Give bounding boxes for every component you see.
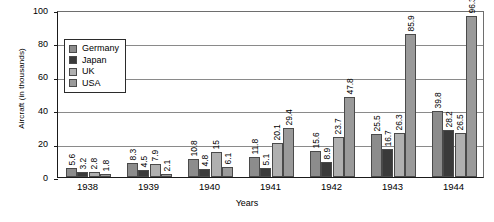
bar	[321, 162, 332, 177]
legend-label-uk: UK	[82, 67, 95, 76]
bar-value-label: 29.4	[284, 109, 293, 125]
bar	[100, 174, 111, 177]
bars-layer: 5.63.22.81.88.34.57.92.110.84.8156.111.8…	[58, 12, 483, 177]
bar-group: 10.84.8156.1	[180, 12, 241, 177]
bar-value-label: 5.1	[262, 154, 271, 166]
bar-value-label: 47.8	[345, 79, 354, 95]
bar	[371, 134, 382, 177]
bar-value-label: 4.8	[201, 155, 210, 167]
bar-value-label: 26.5	[456, 114, 465, 130]
bar	[150, 164, 161, 177]
bar-chart: Aircraft (in thousands) 020406080100 5.6…	[0, 0, 494, 222]
bar-value-label: 5.6	[67, 154, 76, 166]
bar	[333, 137, 344, 177]
bar-value-label: 1.8	[101, 160, 110, 172]
x-tick-label: 1942	[301, 182, 362, 192]
bar-group: 15.68.923.747.8	[302, 12, 363, 177]
bar-value-label: 16.7	[384, 130, 393, 146]
y-tick-label: 40	[20, 107, 48, 116]
bar-value-label: 4.5	[140, 155, 149, 167]
legend-swatch-japan	[69, 56, 77, 64]
bar	[138, 170, 149, 178]
legend-swatch-germany	[69, 45, 77, 53]
bar-value-label: 2.8	[90, 158, 99, 170]
x-tick-label: 1939	[118, 182, 179, 192]
bar	[466, 16, 477, 177]
bar-value-label: 7.9	[151, 150, 160, 162]
bar-value-label: 10.8	[189, 140, 198, 156]
y-tick-mark	[54, 179, 58, 180]
x-tick-label: 1940	[179, 182, 240, 192]
bar-value-label: 20.1	[273, 125, 282, 141]
x-tick-label: 1944	[423, 182, 484, 192]
bar-group: 5.63.22.81.8	[58, 12, 119, 177]
bar-value-label: 23.7	[334, 119, 343, 135]
bar-value-label: 28.2	[445, 111, 454, 127]
bar	[272, 143, 283, 177]
bar-value-label: 6.1	[223, 153, 232, 165]
bar	[222, 167, 233, 177]
bar-group: 8.34.57.92.1	[119, 12, 180, 177]
bar-value-label: 15.6	[311, 132, 320, 148]
legend-swatch-usa	[69, 79, 77, 87]
bar	[89, 172, 100, 177]
x-tick-label: 1938	[57, 182, 118, 192]
legend-item: UK	[69, 66, 119, 78]
y-tick-label: 100	[20, 7, 48, 16]
bar	[199, 169, 210, 177]
legend-label-usa: USA	[82, 79, 101, 88]
bar-group: 39.828.226.596.3	[424, 12, 485, 177]
plot-area: 5.63.22.81.88.34.57.92.110.84.8156.111.8…	[57, 11, 484, 178]
bar-value-label: 15	[212, 140, 221, 149]
legend-item: Germany	[69, 43, 119, 55]
bar	[127, 163, 138, 177]
bar-value-label: 26.3	[395, 114, 404, 130]
bar-group: 11.85.120.129.4	[241, 12, 302, 177]
bar-group: 25.516.726.385.9	[363, 12, 424, 177]
y-tick-label: 20	[20, 140, 48, 149]
bar-value-label: 11.8	[250, 139, 259, 155]
bar-value-label: 8.9	[323, 148, 332, 160]
legend-label-germany: Germany	[82, 44, 119, 53]
legend: Germany Japan UK USA	[64, 39, 126, 93]
bar	[443, 130, 454, 177]
x-axis-title: Years	[0, 198, 494, 208]
legend-swatch-uk	[69, 68, 77, 76]
bar	[211, 152, 222, 177]
bar	[344, 97, 355, 177]
y-tick-label: 60	[20, 73, 48, 82]
bar-value-label: 96.3	[467, 0, 476, 14]
bar-value-label: 25.5	[372, 116, 381, 132]
bar	[260, 168, 271, 177]
bar	[405, 34, 416, 177]
bar	[283, 128, 294, 177]
y-tick-label: 0	[20, 174, 48, 183]
bar	[161, 174, 172, 178]
x-tick-label: 1943	[362, 182, 423, 192]
bar-value-label: 8.3	[128, 149, 137, 161]
bar	[432, 111, 443, 177]
x-tick-label: 1941	[240, 182, 301, 192]
legend-item: USA	[69, 78, 119, 90]
legend-item: Japan	[69, 55, 119, 67]
bar	[310, 151, 321, 177]
bar	[66, 168, 77, 177]
bar	[249, 157, 260, 177]
bar	[188, 159, 199, 177]
bar-value-label: 2.1	[162, 159, 171, 171]
bar-value-label: 85.9	[406, 15, 415, 31]
bar	[382, 149, 393, 177]
y-tick-label: 80	[20, 40, 48, 49]
bar	[455, 133, 466, 177]
bar-value-label: 39.8	[433, 92, 442, 108]
legend-label-japan: Japan	[82, 56, 107, 65]
bar	[394, 133, 405, 177]
bar	[77, 172, 88, 177]
bar-value-label: 3.2	[79, 158, 88, 170]
